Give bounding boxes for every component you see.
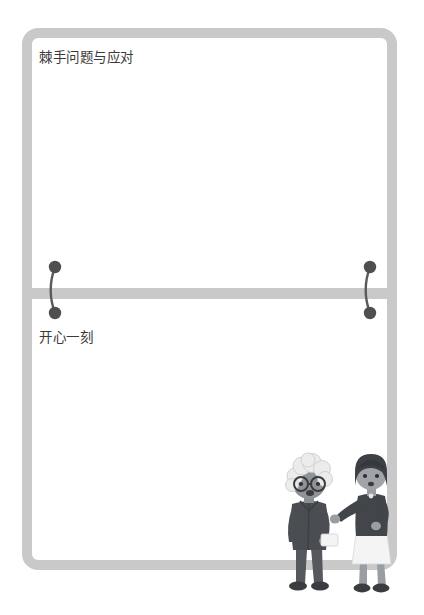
binding-ring-right [362,259,378,321]
illustration-two-women [264,438,424,598]
panel-divider [22,288,397,299]
binding-ring-left [47,259,63,321]
section-label-tricky-questions: 棘手问题与应对 [39,49,134,67]
section-label-happy-moment: 开心一刻 [39,329,93,347]
writing-area-tricky-questions[interactable] [32,72,387,282]
figure-young-woman [330,454,391,592]
page-root: 棘手问题与应对 开心一刻 [0,0,424,615]
figure-elderly-woman [286,453,339,591]
